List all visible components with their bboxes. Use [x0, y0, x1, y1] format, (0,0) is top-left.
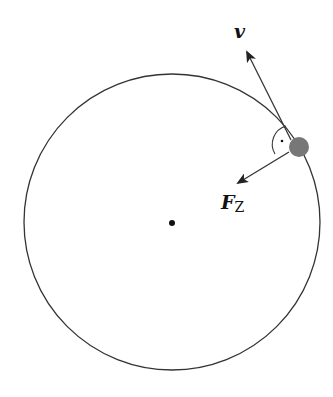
center-point — [169, 220, 175, 226]
right-angle-arc — [272, 126, 286, 154]
mass-body — [289, 137, 309, 157]
centripetal-force-arrow — [238, 152, 289, 183]
circular-motion-diagram — [0, 0, 333, 397]
velocity-vector-arrow — [247, 52, 291, 140]
velocity-label: v — [234, 22, 245, 41]
force-label: FZ — [221, 193, 244, 214]
force-label-main: F — [221, 191, 235, 213]
force-label-subscript: Z — [235, 199, 245, 215]
right-angle-dot — [281, 140, 284, 143]
